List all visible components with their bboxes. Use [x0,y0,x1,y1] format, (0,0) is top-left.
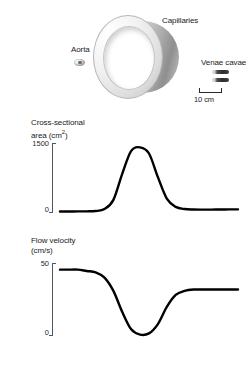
area-ytick-1500: 1500 [27,139,49,148]
area-axis-title-line1: Cross-sectional [31,118,85,128]
cylinder-front-face [93,15,163,99]
scale-bar-icon [199,88,222,93]
aorta-label: Aorta [71,45,90,55]
velocity-axis-title-line2: (cm/s) [31,246,53,256]
cylinder-lumen [103,26,155,90]
velocity-axis-title-line1: Flow velocity [31,236,76,246]
venae-cavae-label: Venae cavae [201,58,246,68]
flow-velocity-curve [52,260,248,340]
aorta-cross-section-icon [74,59,85,66]
physiology-figure: Aorta Capillaries Venae cavae 10 cm Cros… [0,0,251,370]
cross-sectional-area-curve [52,140,248,218]
area-curve-path [60,147,238,211]
velocity-curve-path [60,270,238,335]
scale-bar-label: 10 cm [194,95,214,105]
velocity-ytick-50: 50 [27,259,49,268]
vena-cava-bar-1 [212,70,229,74]
aorta-lumen-icon [78,61,82,64]
area-ytick-0: 0 [27,205,49,214]
vena-cava-bar-2 [212,78,229,82]
velocity-ytick-0: 0 [27,328,49,337]
capillary-cylinder-icon [93,15,193,103]
